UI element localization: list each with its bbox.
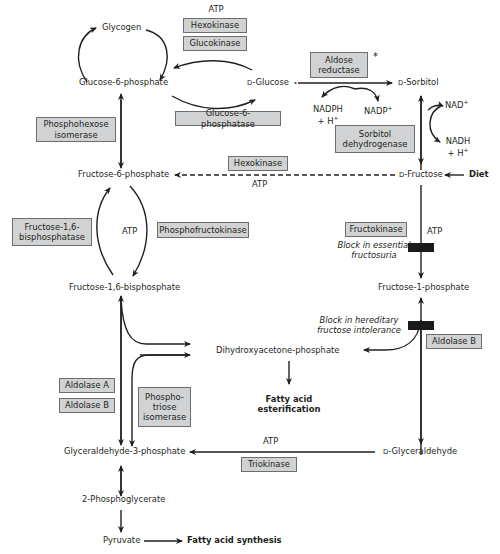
enzyme-phosphotriose-isomerase: Phospho-trioseisomerase [138,387,191,427]
cofactor-atp-hexokinase-top: ATP [208,5,223,15]
metabolite-pyruvate: Pyruvate [103,536,140,546]
cofactor-atp-hexokinase: ATP [252,180,267,190]
enzyme-sorbitol-dehydrogenase: Sorbitoldehydrogenase [335,125,415,153]
product-fatty-acid-esterification: Fatty acidesterification [258,395,321,414]
metabolite-glycogen: Glycogen [102,23,141,33]
arrow-glucose-to-g6p [174,61,252,70]
enzyme-phosphofructokinase: Phosphofructokinase [157,222,249,238]
metabolite-d-fructose: D-Fructose [399,170,443,180]
enzyme-glucose-6-phosphatase: Glucose-6-phosphatase [175,111,281,126]
metabolite-d-glyceraldehyde: D-Glyceraldehyde [383,447,457,457]
metabolite-2-phosphoglycerate: 2-Phosphoglycerate [82,495,165,505]
enzyme-aldose-reductase: Aldosereductase [310,52,368,78]
enzyme-fructokinase: Fructokinase [345,222,407,237]
block-bar-hfi [408,321,434,330]
arrow-glycogen-to-g6p [146,30,167,80]
cofactor-atp-triokinase: ATP [263,437,278,447]
cofactor-nadh: NADH+ H+ [446,137,471,158]
arrow-nadp [355,88,378,101]
block-bar-essential-fructosuria [408,243,434,252]
arrow-f16bp-to-f6p [97,188,113,275]
enzyme-hexokinase-fructose: Hexokinase [228,156,288,171]
product-fatty-acid-synthesis: Fatty acid synthesis [187,536,282,546]
arrow-f16bp-to-dhap [121,300,190,344]
arrow-nadph [322,86,355,97]
enzyme-fructose-1-6-bisphosphatase: Fructose-1,6-bisphosphatase [12,218,92,246]
enzyme-aldolase-a: Aldolase A [59,378,115,393]
cofactor-atp-pfk: ATP [122,227,137,237]
metabolite-fructose-1-6-bisphosphate: Fructose-1,6-bisphosphate [69,283,180,293]
metabolite-glucose-6-phosphate: Glucose-6-phosphate [79,78,168,88]
annotation-block-essential-fructosuria: Block in essentialfructosuria [337,241,410,260]
metabolite-fructose-6-phosphate: Fructose-6-phosphate [78,170,169,180]
cofactor-atp-fructokinase: ATP [427,227,442,237]
source-diet: Diet [469,170,489,180]
metabolite-fructose-1-phosphate: Fructose-1-phosphate [378,283,469,293]
annotation-block-hfi: Block in hereditaryfructose intolerance [317,316,401,335]
arrow-g6p-to-glucose [172,96,255,109]
metabolite-d-glucose: D-Glucose [247,78,289,88]
arrow-g6p-to-glycogen [78,28,96,82]
enzyme-aldolase-b-left: Aldolase B [59,398,115,413]
enzyme-glucokinase: Glucokinase [183,36,247,51]
enzyme-phosphohexose-isomerase: Phosphohexoseisomerase [36,117,116,142]
arrow-nad-to-nadh [430,106,441,142]
enzyme-hexokinase-top: Hexokinase [183,18,247,33]
metabolite-dihydroxyacetone-phosphate: Dihydroxyacetone-phosphate [216,346,339,356]
metabolite-d-sorbitol: D-Sorbitol [398,78,439,88]
enzyme-triokinase: Triokinase [241,457,297,472]
cofactor-nad: NAD+ [445,99,468,110]
cofactor-nadp: NADP+ [364,105,392,116]
enzyme-aldolase-b-right: Aldolase B [426,334,482,349]
metabolite-glyceraldehyde-3-phosphate: Glyceraldehyde-3-phosphate [64,447,185,457]
aldose-reductase-asterisk: * [373,51,378,63]
cofactor-nadph: NADPH+ H+ [313,105,343,126]
